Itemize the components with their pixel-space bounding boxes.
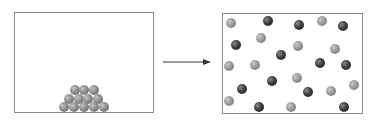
dark-particle xyxy=(341,60,351,70)
dark-particle xyxy=(263,16,273,26)
dark-particle xyxy=(231,40,241,50)
dark-particle xyxy=(315,58,325,68)
dark-particle xyxy=(267,76,277,86)
light-particle xyxy=(349,80,359,90)
particle xyxy=(59,102,69,112)
dark-particle xyxy=(276,50,286,60)
dark-particle xyxy=(294,20,304,30)
light-particle xyxy=(317,16,327,26)
light-particle xyxy=(330,44,340,54)
light-particle xyxy=(286,102,296,112)
light-particle xyxy=(224,96,234,106)
light-particle xyxy=(256,33,266,43)
light-particle xyxy=(326,86,336,96)
light-particle xyxy=(250,60,260,70)
particle xyxy=(69,102,79,112)
particle xyxy=(99,102,109,112)
light-particle xyxy=(226,18,236,28)
right-arrow-icon xyxy=(163,57,211,67)
light-particle xyxy=(224,61,234,71)
dark-particle xyxy=(254,102,264,112)
light-particle xyxy=(292,73,302,83)
particle xyxy=(79,102,89,112)
dark-particle xyxy=(339,102,349,112)
dark-particle xyxy=(338,21,348,31)
light-particle xyxy=(293,41,303,51)
particle xyxy=(89,102,99,112)
dark-particle xyxy=(237,84,247,94)
dark-particle xyxy=(303,87,313,97)
